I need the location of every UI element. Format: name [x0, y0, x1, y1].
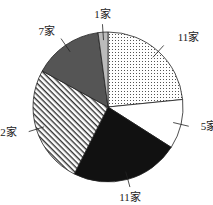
- pie-slice: [108, 32, 183, 107]
- slice-label: 1家: [94, 7, 111, 20]
- pie-chart: 11家5家11家12家7家1家: [0, 0, 213, 205]
- slice-label: 12家: [0, 125, 17, 138]
- slice-label: 11家: [119, 190, 141, 203]
- slice-label: 11家: [178, 30, 200, 43]
- slice-label: 7家: [39, 24, 56, 37]
- slice-label: 5家: [201, 119, 213, 132]
